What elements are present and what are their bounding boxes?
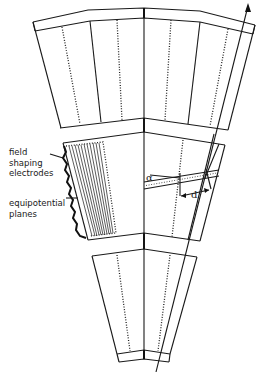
label-line: equipotential xyxy=(9,198,65,209)
d-symbol: d xyxy=(191,189,197,200)
field-shaping-label: field shaping electrodes xyxy=(9,147,53,179)
bottom-band xyxy=(117,350,170,362)
track-arrow xyxy=(156,3,251,372)
label-line: electrodes xyxy=(9,168,53,179)
sector-diagram xyxy=(0,0,258,372)
label-line: field xyxy=(9,147,53,158)
alpha-symbol: α xyxy=(146,172,153,183)
upper-segment-dividers xyxy=(62,20,228,126)
electrode-block xyxy=(66,142,116,236)
label-line: shaping xyxy=(9,158,53,169)
field-shaping-electrodes xyxy=(63,146,86,238)
equipotential-label: equipotential planes xyxy=(9,198,65,219)
track-band xyxy=(144,169,219,198)
label-line: planes xyxy=(9,209,65,220)
